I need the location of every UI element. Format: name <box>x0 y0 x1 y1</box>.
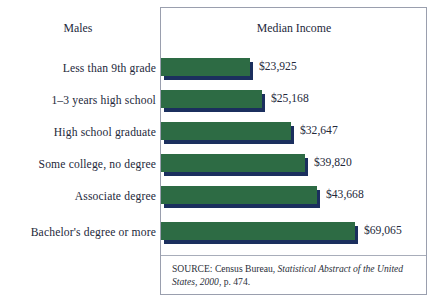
bar-row <box>161 222 359 244</box>
category-label: 1–3 years high school <box>0 94 156 107</box>
source-suffix: , p. 474. <box>219 276 250 287</box>
category-label: Some college, no degree <box>0 158 156 171</box>
category-label: High school graduate <box>0 126 156 139</box>
bar <box>161 222 355 240</box>
category-label: Less than 9th grade <box>0 62 156 75</box>
bar-row <box>161 58 254 80</box>
bar <box>161 154 305 172</box>
bar <box>161 122 291 140</box>
bar <box>161 186 317 204</box>
bar <box>161 58 250 76</box>
bar-row <box>161 90 266 112</box>
bar-row <box>161 186 321 208</box>
category-label: Bachelor's degree or more <box>0 226 156 239</box>
source-divider <box>161 255 426 256</box>
bar-value-label: $25,168 <box>271 92 309 105</box>
bar-row <box>161 154 309 176</box>
bar-value-label: $69,065 <box>364 224 402 237</box>
bar-value-label: $32,647 <box>300 124 338 137</box>
bar-row <box>161 122 295 144</box>
bar-value-label: $39,820 <box>314 156 352 169</box>
bars-layer: $23,925$25,168$32,647$39,820$43,668$69,0… <box>0 0 434 302</box>
bar-value-label: $43,668 <box>326 188 364 201</box>
category-label: Associate degree <box>0 190 156 203</box>
bar-value-label: $23,925 <box>259 60 297 73</box>
source-note: SOURCE: Census Bureau, Statistical Abstr… <box>172 262 417 288</box>
chart-figure: Males Median Income $23,925$25,168$32,64… <box>0 0 434 302</box>
source-prefix: SOURCE: Census Bureau, <box>172 263 278 274</box>
bar <box>161 90 262 108</box>
